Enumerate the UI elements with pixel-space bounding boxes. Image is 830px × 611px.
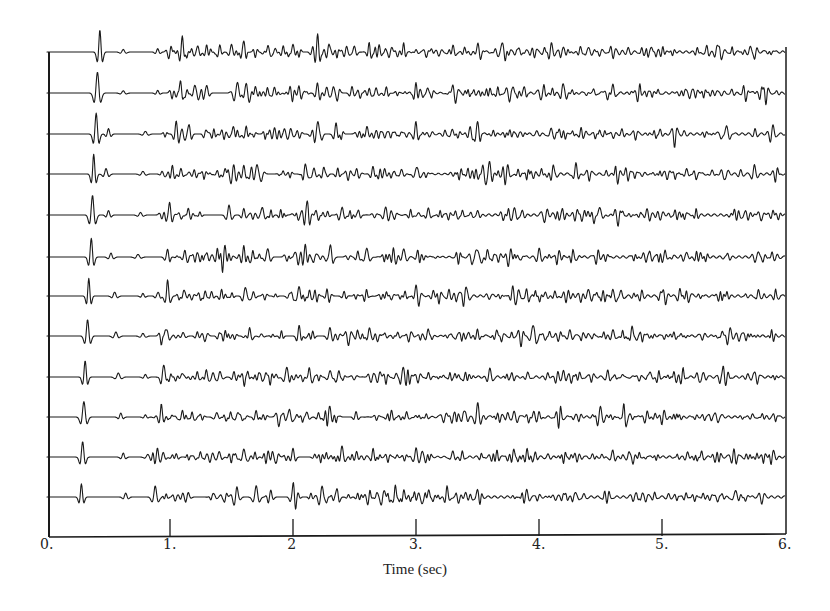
- x-tick-label: 3.: [409, 536, 422, 552]
- x-tick-label: 5.: [655, 536, 668, 552]
- seismic-trace-10: [47, 402, 785, 429]
- seismic-record-section: [0, 0, 830, 611]
- seismic-trace-7: [47, 278, 785, 306]
- x-axis-ticks: [170, 519, 662, 536]
- seismic-trace-11: [47, 442, 785, 464]
- x-tick-label: 1.: [163, 536, 176, 552]
- seismic-trace-9: [47, 361, 785, 386]
- seismic-trace-8: [47, 320, 785, 347]
- x-tick-label: 4.: [532, 536, 545, 552]
- seismic-trace-4: [47, 154, 785, 185]
- seismic-trace-3: [47, 113, 785, 147]
- x-tick-label: 2: [287, 536, 296, 552]
- seismic-trace-6: [47, 238, 785, 272]
- seismic-trace-12: [47, 483, 785, 509]
- trace-group: [47, 31, 785, 509]
- x-tick-label: 0.: [40, 536, 53, 552]
- seismic-trace-2: [47, 73, 785, 105]
- seismic-trace-1: [47, 31, 785, 63]
- x-axis-label: Time (sec): [0, 561, 830, 578]
- seismic-trace-5: [47, 196, 785, 227]
- x-tick-label: 6.: [778, 536, 791, 552]
